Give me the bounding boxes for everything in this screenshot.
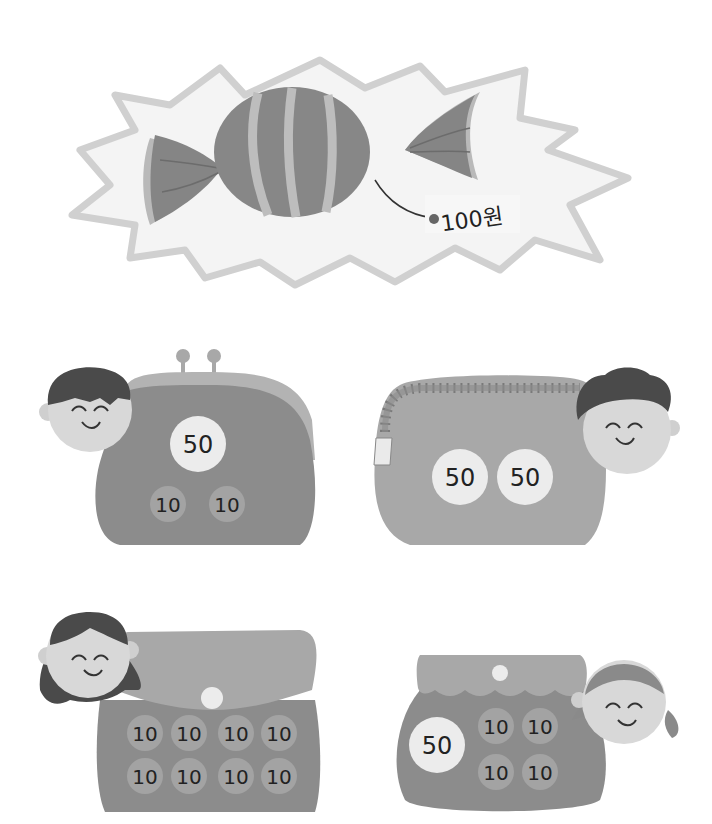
- purse-2: 50 50: [374, 368, 680, 546]
- svg-text:10: 10: [132, 765, 157, 789]
- svg-text:10: 10: [176, 765, 201, 789]
- svg-text:10: 10: [132, 722, 157, 746]
- candy-group: 100원: [72, 60, 628, 285]
- zipper-pull: [374, 438, 392, 465]
- svg-text:10: 10: [155, 493, 180, 517]
- clasp-button: [492, 665, 508, 681]
- svg-text:10: 10: [483, 761, 508, 785]
- svg-text:10: 10: [483, 715, 508, 739]
- svg-text:10: 10: [223, 765, 248, 789]
- svg-text:50: 50: [510, 464, 541, 492]
- clasp-button: [201, 687, 223, 709]
- worksheet-illustration: 100원 50 10 10 50 50: [0, 0, 712, 824]
- svg-text:10: 10: [266, 765, 291, 789]
- svg-text:10: 10: [266, 722, 291, 746]
- svg-text:10: 10: [527, 761, 552, 785]
- purse-1: 50 10 10: [39, 349, 315, 545]
- purse-4: 50 10 10 10 10: [397, 655, 679, 811]
- svg-text:10: 10: [214, 493, 239, 517]
- purse-2-body: [374, 375, 606, 545]
- svg-text:50: 50: [422, 732, 453, 760]
- svg-text:10: 10: [176, 722, 201, 746]
- svg-text:10: 10: [223, 722, 248, 746]
- purse-3: 10 10 10 10 10 10 10 10: [38, 612, 320, 812]
- svg-text:50: 50: [183, 431, 214, 459]
- svg-text:10: 10: [527, 715, 552, 739]
- svg-text:50: 50: [445, 464, 476, 492]
